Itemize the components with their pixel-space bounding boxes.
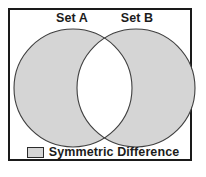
set-b-label: Set B <box>121 11 153 25</box>
legend-swatch-symmetric-difference <box>27 147 44 158</box>
set-a-label: Set A <box>56 11 88 25</box>
legend: Symmetric Difference <box>0 145 206 159</box>
legend-label: Symmetric Difference <box>49 145 180 159</box>
venn-diagram-figure: Set A Set B Symmetric Difference <box>0 0 206 177</box>
